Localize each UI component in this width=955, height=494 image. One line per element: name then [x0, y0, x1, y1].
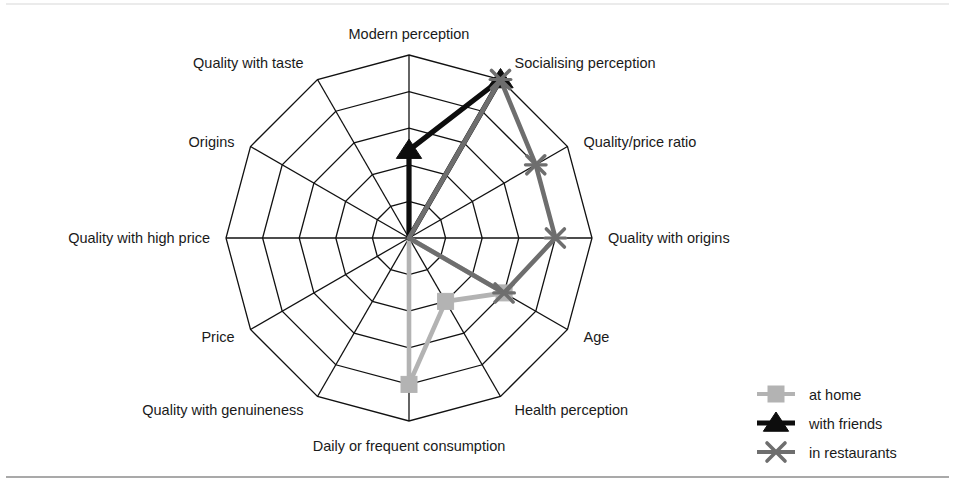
- legend-marker-x-icon: [766, 443, 787, 461]
- axis-label-quality-price-ratio: Quality/price ratio: [584, 134, 697, 150]
- axis-label-daily-or-frequent-consumption: Daily or frequent consumption: [313, 438, 506, 454]
- axis-label-modern-perception: Modern perception: [349, 26, 470, 42]
- legend-item-label: with friends: [808, 416, 882, 432]
- series-line: [409, 238, 504, 384]
- axis-label-quality-with-taste: Quality with taste: [193, 55, 303, 71]
- radar-chart-svg: Modern perceptionSocialising perceptionQ…: [0, 0, 955, 494]
- legend-item-with-friends[interactable]: with friends: [757, 412, 882, 432]
- radar-chart-figure: Modern perceptionSocialising perceptionQ…: [0, 0, 955, 494]
- legend-item-label: in restaurants: [809, 445, 897, 461]
- chart-legend: at homewith friendsin restaurants: [757, 386, 897, 461]
- axis-label-socialising-perception: Socialising perception: [515, 55, 656, 71]
- data-point-marker-square: [438, 293, 454, 309]
- axis-label-quality-with-genuineness: Quality with genuineness: [142, 402, 303, 418]
- data-point-marker-square: [401, 376, 417, 392]
- series-line: [409, 80, 555, 293]
- axis-label-age: Age: [584, 329, 610, 345]
- legend-marker-square-icon: [768, 386, 784, 402]
- axis-label-quality-with-high-price: Quality with high price: [68, 230, 210, 246]
- axis-label-origins: Origins: [189, 134, 235, 150]
- axis-label-quality-with-origins: Quality with origins: [608, 230, 730, 246]
- series-in-restaurants: [409, 71, 566, 302]
- legend-item-label: at home: [809, 387, 861, 403]
- series-with-friends: [396, 69, 513, 238]
- legend-item-in-restaurants[interactable]: in restaurants: [757, 443, 897, 461]
- radar-axis-labels: Modern perceptionSocialising perceptionQ…: [68, 26, 730, 454]
- series-at-home: [401, 238, 512, 392]
- legend-item-at-home[interactable]: at home: [757, 386, 861, 403]
- axis-label-price: Price: [201, 329, 234, 345]
- axis-label-health-perception: Health perception: [515, 402, 629, 418]
